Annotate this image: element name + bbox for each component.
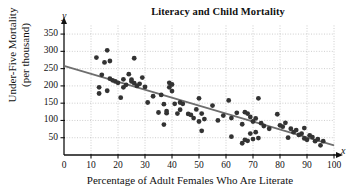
data-point bbox=[310, 135, 315, 140]
data-point bbox=[199, 111, 204, 116]
x-tick-label: 40 bbox=[161, 160, 183, 170]
x-tick-label: 70 bbox=[242, 160, 264, 170]
y-tick-label: 250 bbox=[34, 63, 58, 73]
data-point bbox=[229, 116, 234, 121]
data-point bbox=[210, 103, 215, 108]
y-tick-label: 150 bbox=[34, 97, 58, 107]
data-point bbox=[199, 128, 204, 133]
data-point bbox=[267, 126, 272, 131]
data-point bbox=[178, 107, 183, 112]
data-point bbox=[116, 80, 121, 85]
y-axis-arrow bbox=[61, 17, 67, 24]
data-point bbox=[99, 72, 104, 77]
data-point bbox=[248, 131, 253, 136]
data-point bbox=[286, 135, 291, 140]
data-point bbox=[137, 81, 142, 86]
x-tick-label: 60 bbox=[215, 160, 237, 170]
data-point bbox=[97, 85, 102, 90]
data-point bbox=[172, 101, 177, 106]
x-tick-label: 0 bbox=[53, 160, 75, 170]
data-point bbox=[105, 48, 110, 53]
y-tick-label: 350 bbox=[34, 28, 58, 38]
data-point bbox=[234, 110, 239, 115]
y-tick-label: 100 bbox=[34, 114, 58, 124]
data-point bbox=[162, 102, 167, 107]
data-point bbox=[253, 116, 258, 121]
data-point bbox=[221, 113, 226, 118]
data-point bbox=[140, 75, 145, 80]
data-point bbox=[145, 100, 150, 105]
x-tick-label: 90 bbox=[296, 160, 318, 170]
data-point bbox=[132, 56, 137, 61]
data-point bbox=[240, 122, 245, 127]
data-point bbox=[275, 112, 280, 117]
data-point bbox=[97, 91, 102, 96]
data-point bbox=[256, 136, 261, 141]
data-point bbox=[202, 117, 207, 122]
data-point bbox=[302, 126, 307, 131]
data-point bbox=[143, 85, 148, 90]
data-point bbox=[105, 88, 110, 93]
data-point bbox=[261, 124, 266, 129]
data-point bbox=[197, 96, 202, 101]
data-point bbox=[299, 131, 304, 136]
data-point bbox=[197, 119, 202, 124]
data-point bbox=[318, 143, 323, 148]
chart-figure: Literacy and Child Mortality Under-Five … bbox=[0, 0, 353, 195]
data-point bbox=[121, 77, 126, 82]
data-point bbox=[245, 138, 250, 143]
data-point bbox=[229, 134, 234, 139]
data-point bbox=[194, 107, 199, 112]
data-point bbox=[256, 96, 261, 101]
x-tick-label: 30 bbox=[134, 160, 156, 170]
y-tick-label: 300 bbox=[34, 45, 58, 55]
x-axis-arrow bbox=[336, 152, 343, 158]
data-point bbox=[156, 110, 161, 115]
data-point bbox=[124, 82, 129, 87]
data-point bbox=[126, 72, 131, 77]
data-point bbox=[248, 115, 253, 120]
data-point bbox=[253, 130, 258, 135]
x-tick-label: 100 bbox=[323, 160, 345, 170]
x-tick-label: 10 bbox=[80, 160, 102, 170]
y-tick-label: 50 bbox=[34, 132, 58, 142]
data-point bbox=[170, 82, 175, 87]
data-point bbox=[102, 60, 107, 65]
data-point bbox=[315, 137, 320, 142]
y-tick-label: 200 bbox=[34, 80, 58, 90]
data-point bbox=[305, 137, 310, 142]
data-point bbox=[294, 128, 299, 133]
x-tick-label: 20 bbox=[107, 160, 129, 170]
data-point bbox=[170, 89, 175, 94]
data-point bbox=[283, 120, 288, 125]
data-point bbox=[216, 118, 221, 123]
data-point bbox=[94, 55, 99, 60]
data-point bbox=[251, 137, 256, 142]
data-point bbox=[118, 95, 123, 100]
x-tick-label: 80 bbox=[269, 160, 291, 170]
data-point bbox=[159, 92, 164, 97]
x-tick-label: 50 bbox=[188, 160, 210, 170]
data-point bbox=[180, 101, 185, 106]
data-point bbox=[321, 139, 326, 144]
data-point bbox=[162, 122, 167, 127]
data-point bbox=[164, 109, 169, 114]
data-point bbox=[191, 116, 196, 121]
data-point bbox=[151, 94, 156, 99]
data-point bbox=[226, 98, 231, 103]
data-point bbox=[108, 59, 113, 64]
